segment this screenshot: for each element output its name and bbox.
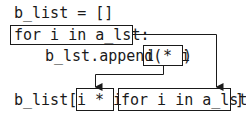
code-line-2: for i in a_lst: (14, 26, 149, 44)
code-line-4-prefix: b_list[ (14, 91, 77, 109)
code-line-1: b_list = [] (14, 4, 113, 22)
code-line-4-loop: for i in a_lst (121, 91, 246, 109)
expr-arrow (96, 66, 164, 87)
code-line-3-suffix: ) (183, 47, 192, 65)
code-line-4-expr: i * i (77, 91, 122, 109)
code-line-4-suffix: ] (235, 91, 244, 109)
